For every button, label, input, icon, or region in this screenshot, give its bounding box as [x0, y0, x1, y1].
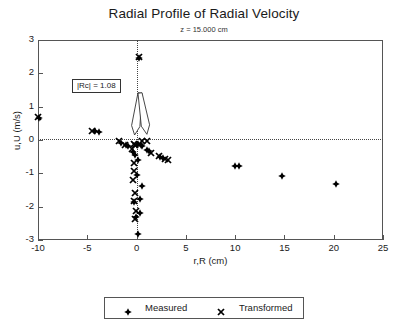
- chart-title: Radial Profile of Radial Velocity: [0, 6, 408, 21]
- y-tick: [38, 107, 43, 108]
- x-tick-label: 5: [166, 242, 206, 253]
- zero-line-horizontal: [38, 139, 383, 140]
- chart-legend: Measured Transformed: [104, 297, 304, 319]
- plot-area: [38, 40, 383, 240]
- x-tick-label: -5: [67, 242, 107, 253]
- legend-label-transformed: Transformed: [239, 302, 293, 313]
- y-axis-label: u,U (m/s): [11, 86, 22, 176]
- y-tick: [38, 73, 43, 74]
- x-tick: [383, 235, 384, 240]
- y-tick-label: -2: [12, 200, 34, 211]
- x-tick-label: 20: [314, 242, 354, 253]
- annotation-label: |Rc| = 1.08: [72, 79, 121, 93]
- chart-figure: Radial Profile of Radial Velocity z = 15…: [0, 0, 408, 332]
- y-tick-label: 3: [12, 33, 34, 44]
- chart-subtitle: z = 15.000 cm: [0, 25, 408, 34]
- y-tick: [38, 240, 43, 241]
- x-tick: [284, 235, 285, 240]
- legend-marker-transformed: [216, 303, 225, 312]
- y-tick: [38, 173, 43, 174]
- x-tick: [87, 235, 88, 240]
- x-tick-label: 0: [117, 242, 157, 253]
- x-tick-label: 10: [215, 242, 255, 253]
- y-tick: [38, 207, 43, 208]
- x-tick: [235, 235, 236, 240]
- x-tick: [186, 235, 187, 240]
- zero-line-vertical: [137, 40, 138, 240]
- y-tick-label: 2: [12, 66, 34, 77]
- y-tick-label: -3: [12, 233, 34, 244]
- x-tick: [334, 235, 335, 240]
- y-tick: [38, 40, 43, 41]
- x-tick-label: 15: [264, 242, 304, 253]
- legend-label-measured: Measured: [145, 302, 187, 313]
- legend-marker-measured: [123, 303, 132, 312]
- x-tick: [137, 235, 138, 240]
- y-tick: [38, 140, 43, 141]
- x-tick-label: 25: [363, 242, 403, 253]
- x-axis-label: r,R (cm): [38, 255, 383, 266]
